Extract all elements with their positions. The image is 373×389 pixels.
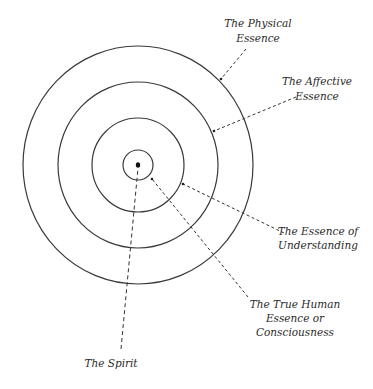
label-affective-line2: Essence xyxy=(294,90,339,102)
label-understanding-line2: Understanding xyxy=(278,239,358,251)
leader-physical xyxy=(221,49,246,79)
label-understanding-line1: The Essence of xyxy=(278,225,360,237)
leader-spirit xyxy=(121,168,138,349)
label-physical-line2: Essence xyxy=(235,32,280,44)
label-true-human-line3: Consciousness xyxy=(256,326,335,338)
label-affective-line1: The Affective xyxy=(282,75,352,87)
label-true-human-line1: The True Human xyxy=(250,298,341,310)
essence-diagram: The Physical Essence The Affective Essen… xyxy=(0,0,373,389)
label-physical-line1: The Physical xyxy=(224,17,291,29)
spirit-core-dot xyxy=(136,162,140,168)
label-true-human-line2: Essence or xyxy=(265,312,325,324)
leader-true-human xyxy=(152,179,248,297)
label-spirit: The Spirit xyxy=(84,357,138,369)
leader-understanding xyxy=(183,184,284,233)
leader-affective xyxy=(214,97,296,131)
